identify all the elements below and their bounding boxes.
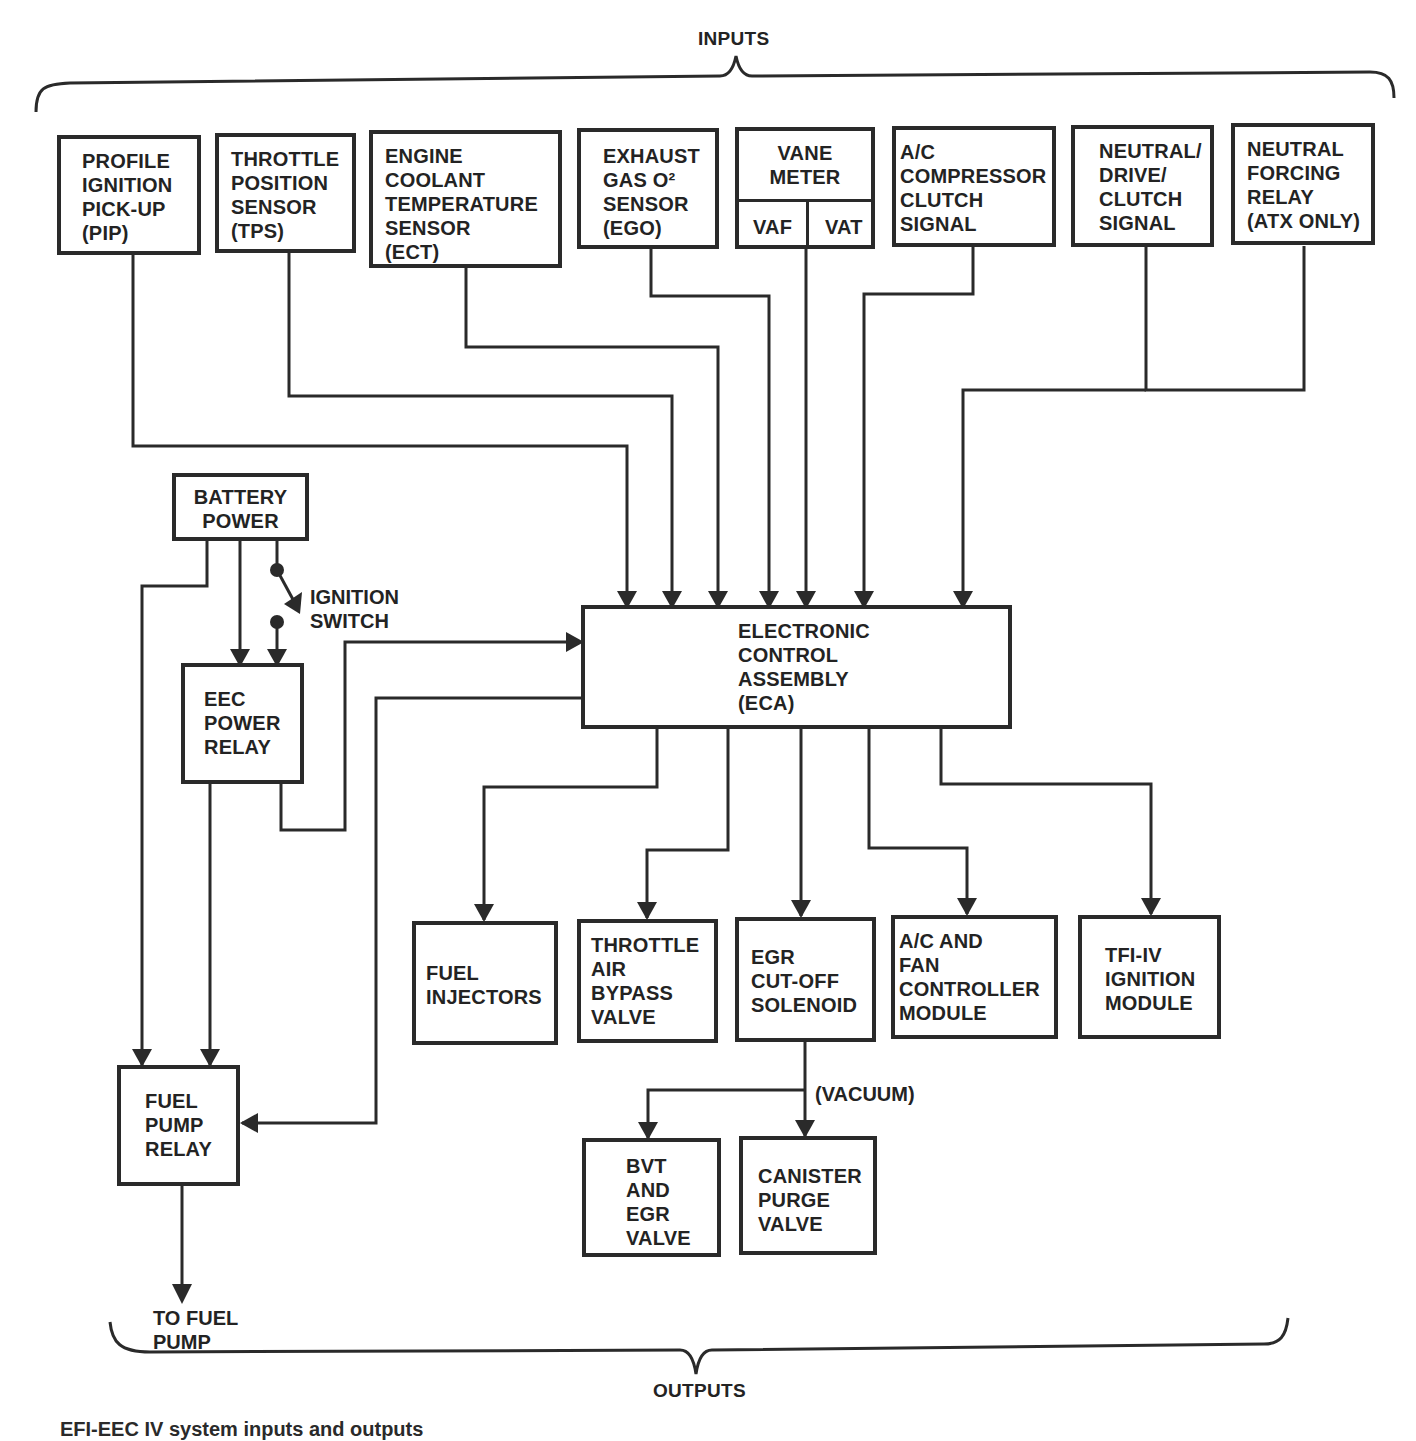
input-ac-clutch-label: A/C COMPRESSOR CLUTCH SIGNAL (900, 140, 1046, 236)
figure-caption: EFI-EEC IV system inputs and outputs (60, 1418, 423, 1441)
output-egr-solenoid-label: EGR CUT-OFF SOLENOID (751, 945, 857, 1017)
output-fuel-injectors-label: FUEL INJECTORS (426, 961, 542, 1009)
fuel-pump-relay-box: FUEL PUMP RELAY (117, 1065, 240, 1186)
eec-power-relay-label: EEC POWER RELAY (204, 687, 281, 759)
outputs-header: OUTPUTS (653, 1380, 746, 1402)
vane-meter-label: VANE METER (739, 141, 871, 189)
to-fuel-pump-label: TO FUEL PUMP (153, 1306, 238, 1354)
input-nfr-label: NEUTRAL FORCING RELAY (ATX ONLY) (1247, 137, 1360, 233)
output-ac-fan-label: A/C AND FAN CONTROLLER MODULE (899, 929, 1040, 1025)
outputs-brace (110, 1318, 1288, 1374)
output-canister-label: CANISTER PURGE VALVE (758, 1164, 862, 1236)
inputs-brace (36, 56, 1394, 112)
vat-label: VAT (825, 215, 863, 239)
output-tab-valve-label: THROTTLE AIR BYPASS VALVE (591, 933, 699, 1029)
input-ego-label: EXHAUST GAS O² SENSOR (EGO) (603, 144, 700, 240)
input-vane-meter-box: VANE METER VAF VAT (735, 127, 875, 249)
vaf-label: VAF (753, 215, 792, 239)
output-ac-fan-box: A/C AND FAN CONTROLLER MODULE (891, 915, 1058, 1039)
input-pip-box: PROFILE IGNITION PICK-UP (PIP) (57, 135, 201, 255)
vacuum-label: (VACUUM) (815, 1082, 915, 1106)
input-tps-box: THROTTLE POSITION SENSOR (TPS) (215, 133, 356, 253)
vane-meter-divider (739, 199, 871, 202)
vane-meter-split (806, 199, 809, 249)
input-ac-clutch-box: A/C COMPRESSOR CLUTCH SIGNAL (892, 126, 1056, 247)
ignition-switch-label: IGNITION SWITCH (310, 585, 399, 633)
output-tfi-box: TFI-IV IGNITION MODULE (1078, 915, 1221, 1039)
inputs-header: INPUTS (698, 28, 769, 50)
input-ndc-label: NEUTRAL/ DRIVE/ CLUTCH SIGNAL (1099, 139, 1202, 235)
eec-power-relay-box: EEC POWER RELAY (181, 663, 304, 784)
eca-label: ELECTRONIC CONTROL ASSEMBLY (ECA) (738, 619, 870, 715)
input-ndc-box: NEUTRAL/ DRIVE/ CLUTCH SIGNAL (1071, 125, 1214, 247)
input-ect-box: ENGINE COOLANT TEMPERATURE SENSOR (ECT) (369, 130, 562, 268)
output-tab-valve-box: THROTTLE AIR BYPASS VALVE (577, 919, 718, 1043)
input-tps-label: THROTTLE POSITION SENSOR (TPS) (231, 147, 339, 243)
output-tfi-label: TFI-IV IGNITION MODULE (1105, 943, 1196, 1015)
battery-power-box: BATTERY POWER (172, 473, 309, 541)
output-bvt-egr-label: BVT AND EGR VALVE (626, 1154, 691, 1250)
output-bvt-egr-box: BVT AND EGR VALVE (582, 1138, 721, 1257)
output-fuel-injectors-box: FUEL INJECTORS (412, 921, 558, 1045)
input-ect-label: ENGINE COOLANT TEMPERATURE SENSOR (ECT) (385, 144, 538, 264)
output-egr-solenoid-box: EGR CUT-OFF SOLENOID (735, 917, 876, 1042)
input-ego-box: EXHAUST GAS O² SENSOR (EGO) (577, 128, 719, 249)
battery-power-label: BATTERY POWER (176, 485, 305, 533)
eca-box: ELECTRONIC CONTROL ASSEMBLY (ECA) (581, 605, 1012, 729)
output-canister-box: CANISTER PURGE VALVE (739, 1136, 877, 1255)
input-pip-label: PROFILE IGNITION PICK-UP (PIP) (82, 149, 173, 245)
fuel-pump-relay-label: FUEL PUMP RELAY (145, 1089, 212, 1161)
input-nfr-box: NEUTRAL FORCING RELAY (ATX ONLY) (1231, 123, 1375, 245)
